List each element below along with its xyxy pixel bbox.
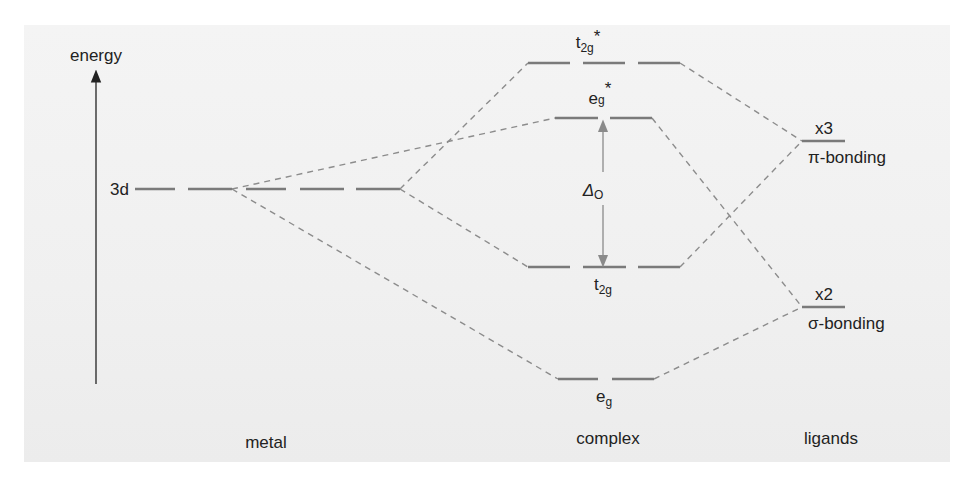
ligand-sigma-multiplicity: x2 [815,285,833,304]
correlation-lines [232,63,802,379]
eg-star-label: eg* [589,79,612,108]
ligand-pi-multiplicity: x3 [815,119,833,138]
column-label-ligands: ligands [804,429,858,448]
mo-diagram: energy 3d [0,0,974,486]
energy-axis-label: energy [70,46,122,65]
eg-label: eg [596,387,612,409]
column-label-metal: metal [245,433,287,452]
metal-3d-label: 3d [110,180,129,199]
energy-axis: energy [70,46,122,384]
t2g-label: t2g [594,275,612,297]
ligand-pi-label: π-bonding [808,148,886,167]
t2g-star-label: t2g* [576,27,601,55]
column-label-complex: complex [576,429,640,448]
delta-o-label: ΔO [582,181,604,202]
ligand-sigma-label: σ-bonding [808,314,885,333]
delta-o-splitting: ΔO [582,122,604,265]
